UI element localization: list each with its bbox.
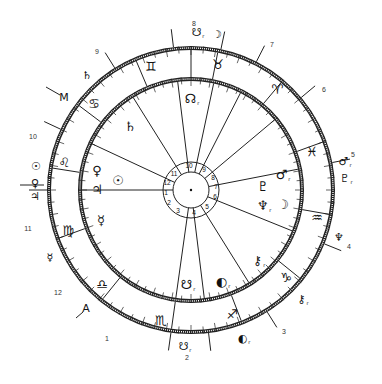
mars-icon-text: ♂: [276, 167, 288, 182]
south-node-outer-2-icon-text: ☋: [179, 340, 189, 353]
mercury-icon-text: ☿: [97, 213, 105, 228]
hub-house-number: 3: [176, 208, 180, 215]
house-cusp-extension: [267, 312, 277, 327]
house-number: 4: [347, 243, 351, 250]
house-cusp-extension: [44, 122, 60, 130]
hub-house-number-text: 11: [171, 170, 178, 177]
house-number-text: 2: [185, 354, 189, 361]
retrograde-marker: r: [228, 283, 230, 289]
retrograde-marker: r: [307, 300, 309, 306]
mercury-outer-icon-text: ☿: [47, 251, 54, 264]
neptune-outer-icon-text: ♆: [334, 231, 344, 244]
hub-house-number: 2: [167, 200, 171, 207]
ascendant-icon-text: A: [82, 302, 90, 315]
pisces-icon-text: ♓: [306, 144, 318, 159]
house-number: 6: [322, 86, 326, 93]
hub-house-number: 1: [164, 190, 168, 197]
house-cusp-extension: [105, 53, 115, 68]
mc-line: [46, 87, 60, 95]
house-number: 5: [351, 151, 355, 158]
house-cusp-line: [92, 144, 174, 182]
venus-icon-text: ♀: [92, 163, 102, 178]
hub-house-number: 8: [211, 175, 215, 182]
house-number-text: 4: [347, 243, 351, 250]
house-number-text: 10: [29, 133, 37, 140]
center-dot: [190, 189, 192, 191]
saturn-icon: ♄: [124, 120, 136, 133]
taurus-icon-text: ♉: [212, 57, 224, 72]
sagittarius-icon: ♐: [226, 308, 238, 321]
hub-house-number-text: 2: [167, 199, 171, 206]
sagittarius-icon-text: ♐: [226, 307, 238, 322]
ascendant-icon: A: [82, 303, 90, 314]
neptune-icon-text: ♆: [257, 198, 269, 213]
retrograde-marker: r: [288, 176, 290, 182]
hub-house-number-text: 6: [213, 193, 217, 200]
pisces-icon: ♓: [306, 145, 318, 158]
retrograde-marker: r: [349, 162, 351, 168]
hub-house-number-text: 1: [164, 189, 168, 196]
house-number-text: 9: [95, 48, 99, 55]
virgo-icon: ♍: [62, 224, 74, 237]
house-cusp-line: [205, 120, 275, 178]
south-node-outer-2-icon: ☋r: [179, 341, 192, 353]
chiron-outer-icon: ⚷r: [297, 294, 308, 306]
hub-house-number-text: 9: [202, 166, 206, 173]
aquarius-icon-text: ♒: [311, 210, 323, 225]
retrograde-marker: r: [263, 262, 265, 268]
pluto-icon: ♇: [257, 180, 269, 193]
moon-outer-icon: ☽: [212, 29, 222, 40]
mars-outer-icon: ♂r: [339, 156, 352, 168]
hub-house-number: 9: [202, 167, 206, 174]
house-cusp-line: [133, 98, 181, 175]
jupiter-outer-icon-text: ♃: [30, 190, 40, 203]
virgo-icon-text: ♍: [62, 223, 74, 238]
hub-house-number: 12: [163, 180, 170, 187]
house-number: 1: [105, 335, 109, 342]
jupiter-outer-icon: ♃: [30, 191, 40, 202]
chiron-icon-text: ⚷: [253, 253, 263, 268]
hub-house-number-text: 7: [214, 183, 218, 190]
neptune-icon: ♆r: [257, 199, 272, 213]
retrograde-marker: r: [269, 207, 271, 213]
retrograde-marker: r: [350, 179, 352, 185]
retrograde-marker: r: [248, 339, 250, 345]
south-node-icon: ☋r: [181, 278, 196, 292]
pluto-icon-text: ♇: [257, 179, 269, 194]
leo-icon-text: ♌: [58, 155, 70, 170]
moon-icon-text: ☽: [277, 197, 289, 212]
house-cusp-extension: [256, 46, 264, 62]
capricorn-icon: ♑: [280, 271, 292, 284]
lilith-icon: ◐r: [216, 275, 230, 289]
lilith-outer-icon: ◐r: [238, 333, 251, 345]
hub-house-number: 5: [205, 204, 209, 211]
cancer-icon: ♋: [88, 97, 100, 110]
hub-house-number: 6: [213, 194, 217, 201]
house-number-text: 3: [282, 328, 286, 335]
house-number: 9: [95, 48, 99, 55]
house-cusp-line: [201, 205, 249, 282]
leo-icon: ♌: [58, 156, 70, 169]
venus-outer-icon: ♀: [31, 178, 39, 189]
south-node-outer-icon: ☋r: [192, 27, 205, 39]
sign-boundary-line: [172, 302, 176, 329]
chiron-icon: ⚷r: [253, 254, 266, 268]
saturn-icon-text: ♄: [124, 119, 136, 134]
house-number: 10: [29, 133, 37, 140]
hub-house-number: 4: [192, 210, 196, 217]
neptune-outer-icon: ♆: [334, 232, 344, 243]
house-number: 3: [282, 328, 286, 335]
north-node-icon: ☊r: [185, 92, 200, 106]
cancer-icon-text: ♋: [88, 96, 100, 111]
midheaven-icon: M: [59, 92, 69, 103]
house-number-text: 7: [270, 41, 274, 48]
house-number-text: 6: [322, 86, 326, 93]
astrology-chart-wheel: [0, 0, 382, 384]
libra-icon: ♎: [96, 278, 108, 291]
north-node-icon-text: ☊: [185, 91, 197, 106]
scorpio-icon-text: ♏: [155, 313, 167, 328]
retrograde-marker: r: [202, 33, 204, 39]
house-number: 2: [185, 354, 189, 361]
pluto-outer-icon-text: ♇: [340, 172, 350, 185]
house-number: 7: [270, 41, 274, 48]
